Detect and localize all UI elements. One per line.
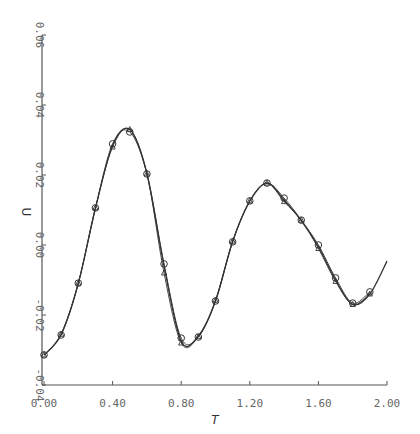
x-tick-label: 0.40 [99, 397, 126, 410]
y-axis-title: U [19, 208, 33, 217]
series-line [44, 128, 370, 355]
x-tick-label: 0.80 [168, 397, 195, 410]
series-line [44, 128, 387, 355]
data-series [41, 127, 387, 359]
x-axis-title: T [211, 413, 220, 427]
x-tick-label: 1.60 [305, 397, 332, 410]
y-tick-label: 0.04 [33, 92, 46, 119]
y-tick-label: -0.02 [33, 298, 46, 331]
series-circle [41, 129, 373, 359]
series-none [44, 128, 387, 355]
y-tick-label: -0.04 [33, 368, 46, 401]
line-chart: 0.000.400.801.201.602.00 -0.04-0.020.000… [0, 0, 420, 434]
y-tick-label: 0.06 [33, 22, 46, 49]
x-tick-label: 1.20 [237, 397, 264, 410]
y-tick-label: 0.00 [33, 232, 46, 259]
y-tick-label: 0.02 [33, 162, 46, 189]
series-triangle [41, 127, 372, 357]
x-tick-label: 2.00 [374, 397, 401, 410]
y-axis-ticks: -0.04-0.020.000.020.040.06 [33, 22, 46, 402]
